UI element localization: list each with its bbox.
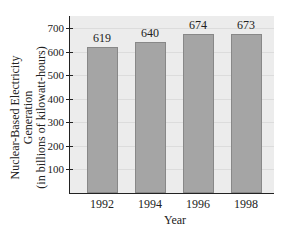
x-axis — [69, 193, 274, 194]
y-tick — [66, 28, 73, 29]
x-tick-label: 1994 — [130, 198, 170, 211]
y-axis-title-line1: Nuclear-Based Electricity Generation — [9, 28, 35, 208]
y-axis-title-line2: (in billions of kilowatt-hours) — [35, 28, 48, 208]
x-axis-title: Year — [150, 213, 200, 228]
y-tick — [66, 169, 73, 170]
y-tick — [66, 99, 73, 100]
bar-1992 — [87, 47, 118, 193]
y-tick — [66, 122, 73, 123]
y-axis-title: Nuclear-Based Electricity Generation (in… — [9, 28, 48, 208]
x-tick-label: 1996 — [178, 198, 218, 211]
bar-1994 — [135, 42, 166, 193]
x-tick-label: 1998 — [226, 198, 266, 211]
bar-value-label: 640 — [130, 27, 170, 40]
bar-value-label: 674 — [178, 19, 218, 32]
y-tick — [66, 75, 73, 76]
bar-value-label: 673 — [226, 19, 266, 32]
y-tick — [66, 52, 73, 53]
x-tick-label: 1992 — [82, 198, 122, 211]
y-tick — [66, 146, 73, 147]
y-axis — [69, 16, 70, 194]
bar-value-label: 619 — [82, 32, 122, 45]
bar-1998 — [231, 34, 262, 193]
bar-1996 — [183, 34, 214, 193]
